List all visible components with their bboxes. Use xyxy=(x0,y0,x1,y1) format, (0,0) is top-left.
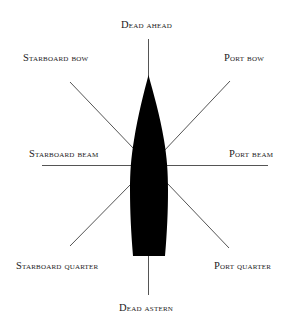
label-port-bow: Port bow xyxy=(224,52,264,64)
label-dead-ahead: Dead ahead xyxy=(121,19,172,31)
label-starboard-bow: Starboard bow xyxy=(23,52,88,64)
label-dead-astern: Dead astern xyxy=(119,302,173,314)
bearings-diagram xyxy=(0,0,291,326)
line-port-quarter xyxy=(167,183,229,248)
label-starboard-beam: Starboard beam xyxy=(29,148,98,160)
label-port-quarter: Port quarter xyxy=(214,260,271,272)
line-port-bow xyxy=(163,81,230,152)
label-port-beam: Port beam xyxy=(229,148,273,160)
line-starboard-bow xyxy=(70,82,134,149)
ship-hull-icon xyxy=(130,75,168,256)
line-starboard-quarter xyxy=(70,184,131,246)
label-starboard-quarter: Starboard quarter xyxy=(16,260,98,272)
